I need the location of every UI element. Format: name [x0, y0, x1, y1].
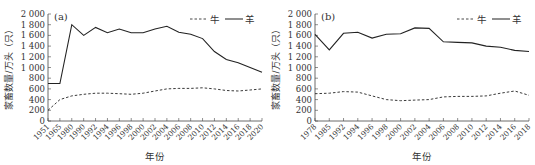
legend-label-cattle: 牛 — [477, 14, 487, 25]
series-line-羊 — [48, 25, 262, 84]
series-line-牛 — [48, 88, 262, 111]
y-axis-label: 家畜数量/万头（只） — [270, 25, 281, 109]
legend-label-sheep: 羊 — [245, 14, 255, 25]
chart-a: 02004006008001 0001 2001 4001 6001 8002 … — [0, 0, 267, 165]
panel-label: (a) — [54, 11, 68, 22]
chart-b: 02004006008001 0001 2001 4001 6001 8002 … — [267, 0, 534, 165]
y-tick-label: 1 600 — [288, 30, 312, 40]
x-axis-label: 年份 — [412, 151, 432, 162]
y-tick-label: 200 — [29, 105, 45, 115]
series-line-羊 — [315, 28, 529, 52]
y-tick-label: 200 — [296, 105, 312, 115]
x-tick-label: 2018 — [513, 122, 533, 142]
y-tick-label: 800 — [296, 73, 312, 83]
y-tick-label: 1 600 — [21, 30, 45, 40]
legend-label-cattle: 牛 — [210, 14, 220, 25]
y-tick-label: 1 200 — [21, 52, 45, 62]
y-tick-label: 1 400 — [21, 41, 45, 51]
y-tick-label: 1 400 — [288, 41, 312, 51]
x-axis-label: 年份 — [145, 151, 165, 162]
legend-label-sheep: 羊 — [512, 14, 522, 25]
y-tick-label: 2 000 — [21, 9, 45, 19]
y-tick-label: 400 — [29, 95, 45, 105]
y-tick-label: 1 800 — [288, 20, 312, 30]
y-tick-label: 1 000 — [288, 63, 312, 73]
y-tick-label: 1 200 — [288, 52, 312, 62]
y-tick-label: 2 000 — [288, 9, 312, 19]
y-tick-label: 1 000 — [21, 63, 45, 73]
y-tick-label: 400 — [296, 95, 312, 105]
y-tick-label: 1 800 — [21, 20, 45, 30]
y-axis-label: 家畜数量/万头（只） — [3, 25, 14, 109]
y-tick-label: 800 — [29, 73, 45, 83]
y-tick-label: 600 — [296, 84, 312, 94]
y-tick-label: 600 — [29, 84, 45, 94]
panel-label: (b) — [321, 11, 335, 22]
figure: 02004006008001 0001 2001 4001 6001 8002 … — [0, 0, 535, 165]
series-line-牛 — [315, 91, 529, 101]
